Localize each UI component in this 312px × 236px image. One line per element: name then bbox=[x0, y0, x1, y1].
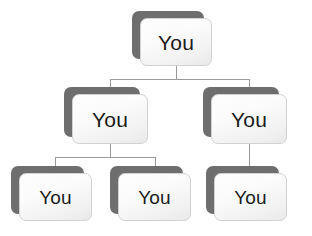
node-mid-right[interactable]: You bbox=[203, 87, 279, 137]
node-face-card: You bbox=[72, 94, 148, 144]
node-label: You bbox=[92, 109, 128, 130]
node-leaf-3[interactable]: You bbox=[206, 166, 279, 214]
hierarchy-diagram: You You You You You You bbox=[0, 0, 312, 236]
node-face-card: You bbox=[118, 173, 191, 221]
node-face-card: You bbox=[140, 18, 212, 66]
node-face-card: You bbox=[19, 173, 92, 221]
node-label: You bbox=[39, 188, 72, 207]
node-label: You bbox=[231, 109, 267, 130]
node-label: You bbox=[158, 32, 194, 53]
node-label: You bbox=[138, 188, 171, 207]
node-leaf-2[interactable]: You bbox=[110, 166, 183, 214]
node-face-card: You bbox=[214, 173, 287, 221]
node-leaf-1[interactable]: You bbox=[11, 166, 84, 214]
node-face-card: You bbox=[211, 94, 287, 144]
node-label: You bbox=[234, 188, 267, 207]
node-mid-left[interactable]: You bbox=[64, 87, 140, 137]
node-root[interactable]: You bbox=[132, 11, 204, 59]
